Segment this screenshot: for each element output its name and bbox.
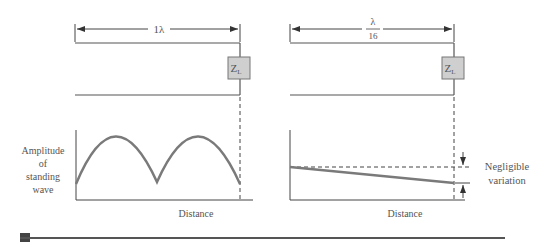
- footer-bar: [20, 237, 505, 239]
- y-axis-label-line-3: standing: [26, 171, 60, 182]
- left-standing-wave-curve: [76, 136, 240, 184]
- left-panel: 1λ ZL Amplitude of standing wave Distanc…: [22, 23, 253, 219]
- annotation-line-1: Negligible: [485, 161, 530, 172]
- diagram-canvas: 1λ ZL Amplitude of standing wave Distanc…: [0, 0, 541, 242]
- y-axis-label-line-1: Amplitude: [22, 145, 65, 156]
- y-axis-label-line-2: of: [39, 158, 48, 169]
- right-length-numerator: λ: [371, 16, 376, 27]
- left-x-axis-label: Distance: [179, 208, 215, 219]
- y-axis-label-line-4: wave: [32, 184, 54, 195]
- right-x-axis-label: Distance: [388, 208, 424, 219]
- annotation-line-2: variation: [488, 175, 526, 186]
- right-length-denominator: 16: [369, 31, 379, 41]
- right-standing-wave-curve: [290, 167, 454, 183]
- left-length-label: 1λ: [154, 23, 166, 35]
- right-panel: λ 16 ZL Negligible variation Distance: [290, 16, 529, 219]
